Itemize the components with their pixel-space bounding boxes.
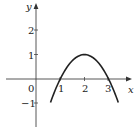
x-tick-label-2: 2 [82,83,88,94]
y-tick-label-1: 1 [28,50,34,61]
x-axis-label: x [128,84,134,95]
x-tick-label-1: 1 [58,83,64,94]
y-axis-arrow-icon [34,3,39,9]
parabola-graph: y x 2 1 −1 0 1 2 3 [0,0,136,131]
y-axis-label: y [25,1,32,12]
x-axis-arrow-icon [126,77,132,82]
origin-label: 0 [28,83,34,94]
y-tick-label-minus1: −1 [21,98,36,109]
y-tick-label-2: 2 [28,25,34,36]
